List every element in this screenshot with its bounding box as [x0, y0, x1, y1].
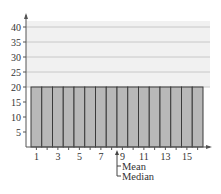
- y-tick-label: 20: [11, 82, 21, 93]
- x-tick-label: 7: [98, 151, 103, 162]
- x-tick-label: 1: [34, 151, 39, 162]
- bar: [182, 87, 193, 147]
- bar: [139, 87, 150, 147]
- y-tick-label: 35: [11, 37, 21, 48]
- y-tick-label: 30: [11, 52, 21, 63]
- y-axis-arrow-icon: [24, 13, 28, 19]
- x-axis-arrow-icon: [206, 145, 212, 149]
- bar: [63, 87, 74, 147]
- bar: [192, 87, 203, 147]
- bar: [160, 87, 171, 147]
- y-tick-label: 40: [11, 22, 21, 33]
- grid-band: [26, 21, 210, 87]
- bar: [117, 87, 128, 147]
- x-tick-label: 3: [55, 151, 60, 162]
- uniform-distribution-bar-chart: 51015202530354013579111315MeanMedian: [0, 0, 221, 194]
- bar: [96, 87, 107, 147]
- x-tick-label: 15: [182, 151, 192, 162]
- bar: [149, 87, 160, 147]
- y-tick-label: 25: [11, 67, 21, 78]
- bar: [74, 87, 85, 147]
- median-label: Median: [122, 171, 155, 182]
- y-tick-label: 5: [16, 127, 21, 138]
- bar: [53, 87, 64, 147]
- bar: [106, 87, 117, 147]
- bar: [85, 87, 96, 147]
- y-tick-label: 10: [11, 112, 21, 123]
- bar: [42, 87, 53, 147]
- bar: [31, 87, 42, 147]
- bar: [128, 87, 139, 147]
- y-tick-label: 15: [11, 97, 21, 108]
- x-tick-label: 13: [160, 151, 170, 162]
- x-tick-label: 5: [77, 151, 82, 162]
- bar: [171, 87, 182, 147]
